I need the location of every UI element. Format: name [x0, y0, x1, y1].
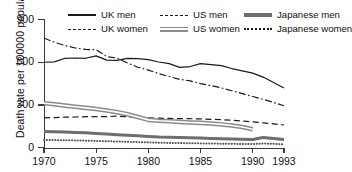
- legend-label: UK men: [101, 9, 136, 21]
- legend-label: US women: [193, 23, 240, 35]
- legend-label: UK women: [101, 23, 148, 35]
- legend-swatch-thick-icon: [244, 10, 272, 20]
- legend-swatch-solid-icon: [68, 10, 96, 20]
- legend-swatch-band-icon: [160, 24, 188, 34]
- legend-swatch-dot-icon: [244, 24, 272, 34]
- legend-label: Japanese men: [277, 9, 340, 21]
- legend-swatch-dash-icon: [68, 24, 96, 34]
- legend-item-uk-women[interactable]: UK women: [68, 23, 148, 35]
- legend-label: Japanese women: [277, 23, 352, 35]
- series-line-japanese-men: [44, 131, 284, 139]
- legend-label: US men: [193, 9, 228, 21]
- legend-swatch-dashdot-icon: [160, 10, 188, 20]
- legend-item-japanese-women[interactable]: Japanese women: [244, 23, 352, 35]
- series-line-uk-men: [44, 56, 284, 88]
- legend-item-japanese-men[interactable]: Japanese men: [244, 9, 340, 21]
- legend-item-us-men[interactable]: US men: [160, 9, 228, 21]
- legend-item-uk-men[interactable]: UK men: [68, 9, 136, 21]
- chart-legend: UK menUS menJapanese menUK womenUS women…: [68, 9, 324, 36]
- legend-item-us-women[interactable]: US women: [160, 23, 240, 35]
